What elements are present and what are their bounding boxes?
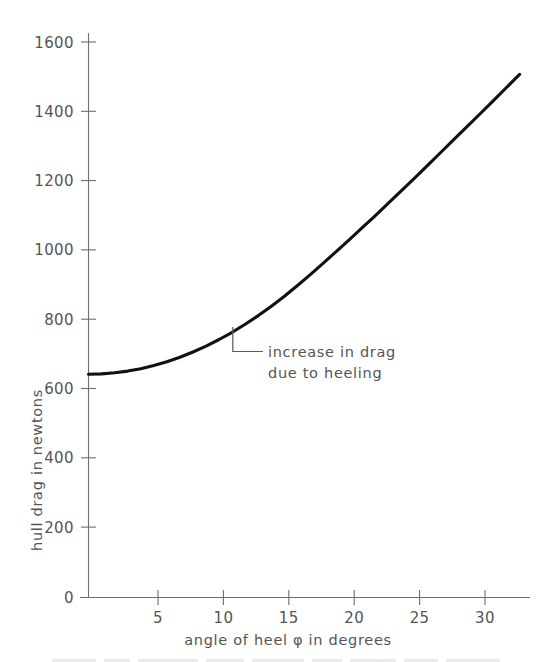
x-tick-label-20: 20 (344, 609, 364, 627)
chart-background (0, 0, 553, 662)
y-tick-label-600: 600 (44, 380, 74, 398)
y-tick-label-0: 0 (64, 589, 74, 607)
chart-svg: 1600 1400 1200 1000 800 600 400 200 0 5 … (0, 0, 553, 662)
y-tick-label-400: 400 (44, 449, 74, 467)
y-tick-label-1000: 1000 (34, 241, 74, 259)
y-axis-title: hull drag in newtons (29, 389, 45, 551)
x-axis-title: angle of heel φ in degrees (184, 632, 392, 648)
x-tick-label-30: 30 (475, 609, 495, 627)
x-tick-label-25: 25 (410, 609, 430, 627)
y-tick-label-200: 200 (44, 519, 74, 537)
y-tick-label-1400: 1400 (34, 103, 74, 121)
chart-figure: 1600 1400 1200 1000 800 600 400 200 0 5 … (0, 0, 553, 662)
x-tick-label-5: 5 (153, 609, 163, 627)
y-tick-label-1600: 1600 (34, 34, 74, 52)
x-tick-label-15: 15 (279, 609, 299, 627)
annotation-line-2: due to heeling (268, 365, 382, 381)
y-tick-label-1200: 1200 (34, 172, 74, 190)
x-tick-label-10: 10 (213, 609, 233, 627)
annotation-line-1: increase in drag (268, 344, 396, 360)
y-tick-label-800: 800 (44, 311, 74, 329)
